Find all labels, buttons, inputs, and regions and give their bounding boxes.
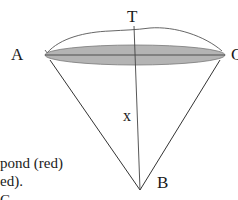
line-C-B [140, 60, 220, 190]
caption-line-3: C [0, 193, 10, 200]
caption-line-1: pond (red) [0, 156, 63, 171]
line-A-B [50, 60, 140, 190]
label-C: C [231, 46, 238, 63]
label-A: A [11, 46, 23, 63]
label-B: B [157, 174, 168, 191]
label-x: x [123, 108, 131, 124]
caption-line-2: ed). [0, 174, 23, 189]
label-T: T [127, 8, 137, 25]
